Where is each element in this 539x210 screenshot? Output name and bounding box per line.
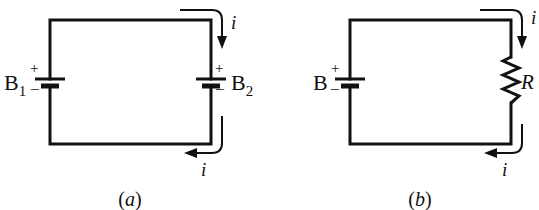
- current-label-bottom-b: i: [502, 159, 507, 180]
- battery-b2-label: B2: [231, 70, 253, 99]
- current-arrow-bottom-b-icon: [484, 124, 522, 158]
- circuit-diagram: + − B1 + − B2 i i (a) R: [0, 0, 539, 210]
- caption-a: (a): [118, 188, 141, 210]
- current-label-top-b: i: [531, 7, 536, 28]
- current-arrow-top-a-icon: [180, 10, 227, 49]
- battery-b1-plus-sign: +: [30, 60, 38, 76]
- current-arrow-bottom-a-icon: [184, 116, 222, 158]
- resistor-r-label: R: [520, 70, 534, 94]
- battery-b2-minus-sign: −: [215, 80, 225, 99]
- circuit-a-wire-loop: [50, 20, 211, 144]
- circuit-a: + − B1 + − B2 i i (a): [4, 10, 253, 210]
- current-arrow-top-b-icon: [480, 10, 527, 49]
- battery-b1-minus-sign: −: [30, 80, 40, 99]
- battery-b1-label: B1: [4, 70, 26, 99]
- battery-b-label: B: [313, 70, 328, 95]
- caption-b: (b): [408, 188, 431, 210]
- circuit-b: R + − B i i (b): [313, 7, 536, 210]
- battery-b2-plus-sign: +: [215, 60, 223, 76]
- circuit-b-wire-loop: [350, 20, 511, 144]
- battery-b-minus-sign: −: [330, 80, 340, 99]
- current-label-top-a: i: [231, 12, 236, 33]
- battery-b-plus-sign: +: [331, 60, 339, 76]
- current-label-bottom-a: i: [201, 159, 206, 180]
- resistor-r: [503, 57, 519, 103]
